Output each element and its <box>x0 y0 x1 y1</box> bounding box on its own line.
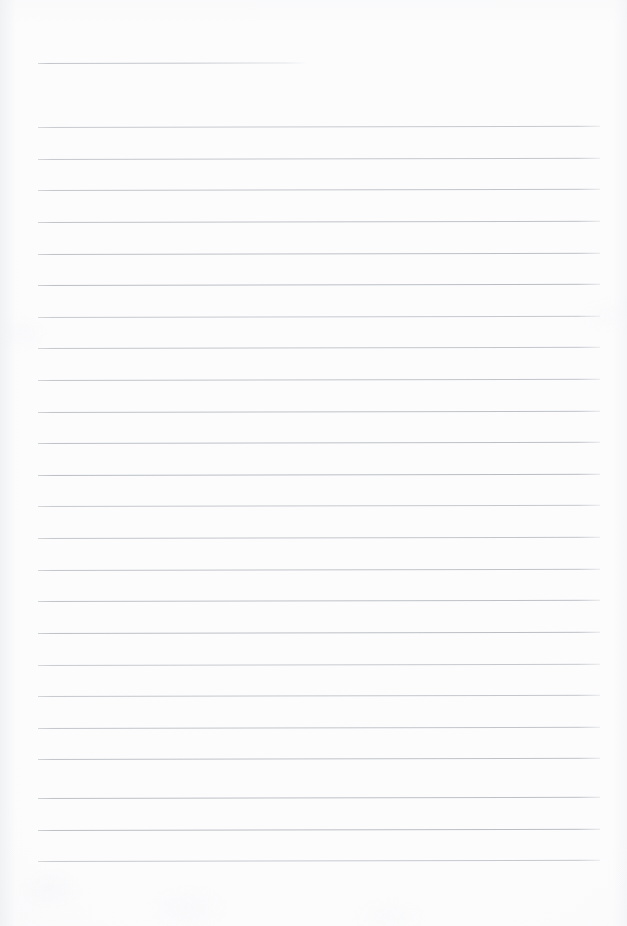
scanned-page <box>0 0 627 926</box>
paper-background <box>0 0 627 926</box>
blank-bottom-margin <box>0 870 627 926</box>
